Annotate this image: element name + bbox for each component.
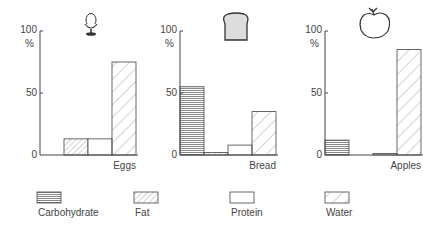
y-tick-label: 100 xyxy=(305,24,322,35)
y-tick-label: 50 xyxy=(166,87,178,98)
y-tick-label: 0 xyxy=(316,149,322,160)
legend-swatch xyxy=(230,192,254,203)
chart-eggs: 100500%Eggs xyxy=(20,24,138,171)
food-composition-chart: 100500%Eggs100500%Bread100500%Apples Car… xyxy=(0,0,423,229)
y-unit-label: % xyxy=(310,38,319,49)
chart-bread: 100500%Bread xyxy=(160,24,278,171)
y-tick-label: 50 xyxy=(311,87,323,98)
legend-label: Fat xyxy=(135,207,150,218)
bar-carbohydrate xyxy=(325,140,349,155)
legend-item-protein: Protein xyxy=(230,192,263,218)
bar-water xyxy=(112,62,136,155)
y-tick-label: 100 xyxy=(20,24,37,35)
bar-water xyxy=(397,50,421,155)
legend-item-carbohydrate: Carbohydrate xyxy=(37,192,99,218)
legend-swatch xyxy=(37,192,61,203)
legend-swatch xyxy=(325,192,349,203)
legend-item-water: Water xyxy=(325,192,353,218)
x-label: Apples xyxy=(390,160,421,171)
bread-slice-icon xyxy=(224,13,248,40)
apple-icon xyxy=(360,8,390,38)
y-tick-label: 0 xyxy=(31,149,37,160)
egg-in-cup-icon xyxy=(85,14,97,36)
bar-protein xyxy=(228,145,252,155)
x-label: Bread xyxy=(249,160,276,171)
y-unit-label: % xyxy=(165,38,174,49)
y-unit-label: % xyxy=(25,38,34,49)
legend-item-fat: Fat xyxy=(134,192,158,218)
legend-swatch xyxy=(134,192,158,203)
legend-label: Carbohydrate xyxy=(38,207,99,218)
legend-label: Water xyxy=(326,207,353,218)
legend-label: Protein xyxy=(231,207,263,218)
chart-apples: 100500%Apples xyxy=(305,24,423,171)
bar-water xyxy=(252,112,276,155)
x-label: Eggs xyxy=(113,160,136,171)
y-tick-label: 50 xyxy=(26,87,38,98)
bar-protein xyxy=(88,139,112,155)
y-tick-label: 0 xyxy=(171,149,177,160)
y-tick-label: 100 xyxy=(160,24,177,35)
bar-carbohydrate xyxy=(180,87,204,155)
bar-fat xyxy=(64,139,88,155)
